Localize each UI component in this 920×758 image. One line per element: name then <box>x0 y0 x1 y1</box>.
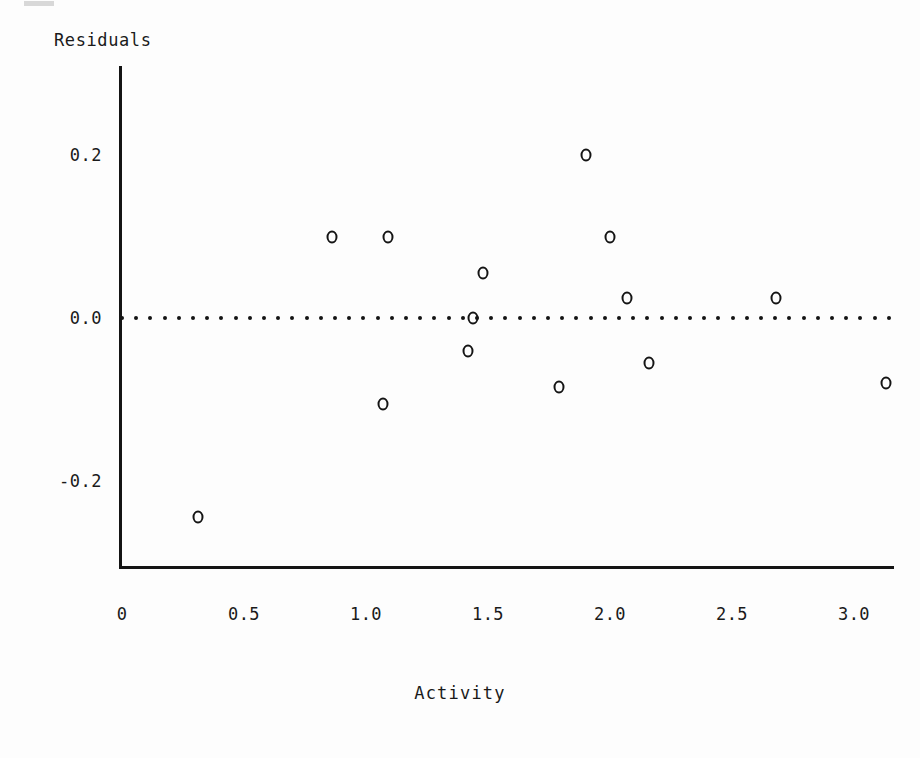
x-tick-label: 3.0 <box>838 604 870 624</box>
zero-line-dot <box>617 316 621 320</box>
data-point-marker <box>326 230 337 243</box>
zero-line-dot <box>873 316 877 320</box>
zero-line-dot <box>844 316 848 320</box>
data-point-marker <box>622 291 633 304</box>
zero-line-dot <box>290 316 294 320</box>
zero-line-dot <box>134 316 138 320</box>
zero-line-dot <box>560 316 564 320</box>
zero-line-dot <box>148 316 152 320</box>
data-point-marker <box>468 312 479 325</box>
zero-line-dot <box>631 316 635 320</box>
zero-line-dot <box>262 316 266 320</box>
zero-line-dot <box>219 316 223 320</box>
zero-line-dot <box>858 316 862 320</box>
x-tick-label: 1.0 <box>350 604 382 624</box>
zero-line-dot <box>773 316 777 320</box>
zero-line-dot <box>532 316 536 320</box>
data-point-marker <box>880 377 891 390</box>
zero-line-dot <box>305 316 309 320</box>
zero-line-dot <box>163 316 167 320</box>
zero-line-dot <box>603 316 607 320</box>
zero-line-dot <box>489 316 493 320</box>
figure-canvas: Residuals 0.20.0-0.2 00.51.01.52.02.53.0… <box>0 0 920 758</box>
zero-line-dot <box>745 316 749 320</box>
x-tick-label: 2.5 <box>716 604 748 624</box>
zero-line-dot <box>702 316 706 320</box>
zero-line-dot <box>461 316 465 320</box>
zero-line-dot <box>120 316 124 320</box>
zero-line-dot <box>674 316 678 320</box>
x-axis-line <box>119 566 894 569</box>
zero-line-dot <box>574 316 578 320</box>
zero-line-dot <box>802 316 806 320</box>
data-point-marker <box>770 291 781 304</box>
zero-line-dot <box>276 316 280 320</box>
data-point-marker <box>644 356 655 369</box>
zero-line-dot <box>376 316 380 320</box>
zero-line-dot <box>660 316 664 320</box>
zero-line-dot <box>248 316 252 320</box>
zero-line-dot <box>418 316 422 320</box>
zero-line-dot <box>830 316 834 320</box>
data-point-marker <box>580 149 591 162</box>
zero-line-dot <box>177 316 181 320</box>
zero-line-dot <box>787 316 791 320</box>
y-tick-label: 0.2 <box>32 145 102 165</box>
zero-line-dot <box>447 316 451 320</box>
zero-line-dot <box>518 316 522 320</box>
zero-line-dot <box>759 316 763 320</box>
zero-line-dot <box>887 316 891 320</box>
x-tick-label: 1.5 <box>472 604 504 624</box>
zero-line-dot <box>645 316 649 320</box>
zero-line-dot <box>589 316 593 320</box>
data-point-marker <box>378 397 389 410</box>
zero-line-dot <box>503 316 507 320</box>
zero-line-dot <box>347 316 351 320</box>
zero-line-dot <box>319 316 323 320</box>
data-point-marker <box>478 267 489 280</box>
scan-artifact <box>24 1 54 6</box>
data-point-marker <box>553 381 564 394</box>
data-point-marker <box>192 510 203 523</box>
zero-line-dot <box>404 316 408 320</box>
zero-line-dot <box>333 316 337 320</box>
x-tick-label: 2.0 <box>594 604 626 624</box>
zero-line-dot <box>234 316 238 320</box>
x-tick-label: 0 <box>117 604 128 624</box>
zero-line-dot <box>205 316 209 320</box>
data-point-marker <box>382 230 393 243</box>
zero-line-dot <box>816 316 820 320</box>
y-tick-label: 0.0 <box>32 308 102 328</box>
zero-line-dot <box>361 316 365 320</box>
x-tick-label: 0.5 <box>228 604 260 624</box>
y-axis-title: Residuals <box>54 30 152 50</box>
zero-line-dot <box>546 316 550 320</box>
zero-line-dot <box>191 316 195 320</box>
zero-line-dot <box>390 316 394 320</box>
zero-line-dot <box>432 316 436 320</box>
x-axis-title: Activity <box>0 683 920 703</box>
zero-line-dot <box>716 316 720 320</box>
zero-line-dot <box>688 316 692 320</box>
y-tick-label: -0.2 <box>32 471 102 491</box>
zero-line-dot <box>731 316 735 320</box>
data-point-marker <box>463 344 474 357</box>
data-point-marker <box>605 230 616 243</box>
